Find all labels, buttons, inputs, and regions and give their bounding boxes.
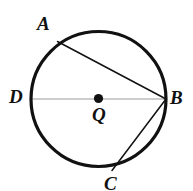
- point-label-Q: Q: [92, 105, 106, 124]
- point-label-C: C: [104, 174, 117, 191]
- chord-BC-line: [112, 99, 166, 171]
- geometry-figure: A B C D Q: [0, 0, 193, 191]
- geometry-canvas: [0, 0, 193, 191]
- chord-AB-line: [58, 42, 167, 100]
- point-label-D: D: [9, 87, 23, 106]
- point-label-B: B: [170, 88, 183, 107]
- point-label-A: A: [37, 14, 50, 33]
- center-dot-icon: [94, 94, 103, 103]
